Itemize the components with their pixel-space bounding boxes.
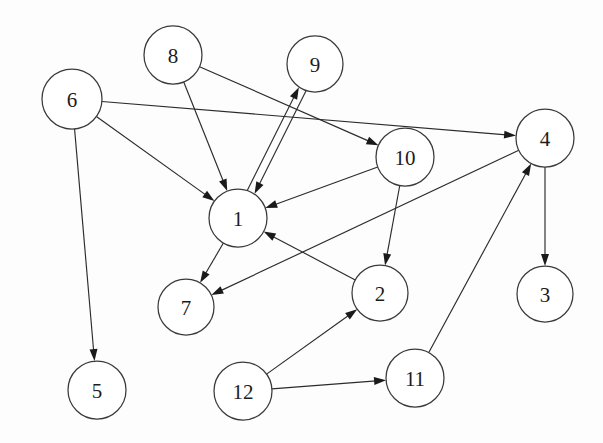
edge-6-to-5 — [75, 129, 98, 361]
node-7[interactable]: 7 — [158, 279, 214, 335]
arrowhead-icon — [200, 270, 210, 282]
node-8[interactable]: 8 — [144, 26, 202, 84]
node-label-6: 6 — [67, 88, 78, 112]
node-label-3: 3 — [540, 283, 551, 307]
arrowhead-icon — [345, 309, 357, 319]
node-10[interactable]: 10 — [376, 128, 434, 186]
arrowhead-icon — [264, 232, 276, 241]
node-label-10: 10 — [395, 146, 416, 170]
node-4[interactable]: 4 — [516, 109, 574, 167]
graph-diagram: 123456789101112 — [0, 0, 603, 443]
arrowhead-icon — [366, 137, 379, 145]
arrowhead-icon — [202, 191, 214, 201]
arrowhead-icon — [290, 87, 299, 100]
node-label-12: 12 — [233, 380, 254, 404]
arrowhead-icon — [522, 164, 531, 176]
edge-9-to-1 — [255, 91, 307, 194]
arrowhead-icon — [541, 254, 549, 266]
edge-2-to-1 — [264, 232, 356, 280]
node-3[interactable]: 3 — [517, 266, 573, 322]
node-label-1: 1 — [233, 207, 244, 231]
graph-canvas: 123456789101112 — [0, 0, 603, 443]
arrowhead-icon — [255, 181, 264, 194]
arrowhead-icon — [504, 131, 516, 139]
node-label-11: 11 — [405, 367, 425, 391]
arrowhead-icon — [219, 178, 227, 191]
arrowhead-icon — [90, 349, 98, 361]
edge-1-to-9 — [247, 87, 299, 190]
edge-12-to-2 — [267, 309, 358, 374]
node-6[interactable]: 6 — [42, 69, 102, 129]
node-9[interactable]: 9 — [287, 36, 343, 92]
node-11[interactable]: 11 — [386, 349, 444, 407]
arrowhead-icon — [211, 286, 224, 295]
edge-6-to-4 — [102, 101, 516, 138]
node-5[interactable]: 5 — [68, 361, 126, 419]
edge-10-to-2 — [383, 186, 399, 266]
edge-1-to-7 — [200, 243, 223, 283]
arrowhead-icon — [374, 377, 386, 385]
node-label-9: 9 — [310, 53, 321, 77]
nodes-layer: 123456789101112 — [42, 26, 574, 420]
edges-layer — [75, 67, 549, 389]
arrowhead-icon — [383, 253, 391, 266]
node-label-4: 4 — [540, 127, 551, 151]
edge-8-to-1 — [184, 82, 228, 191]
node-2[interactable]: 2 — [352, 265, 408, 321]
edge-6-to-1 — [96, 116, 214, 201]
node-1[interactable]: 1 — [209, 189, 267, 247]
edge-10-to-1 — [265, 167, 378, 208]
edge-12-to-11 — [272, 377, 386, 389]
edge-4-to-3 — [541, 167, 549, 266]
node-label-7: 7 — [181, 296, 192, 320]
edge-11-to-4 — [429, 164, 531, 353]
node-label-8: 8 — [168, 44, 179, 68]
node-label-2: 2 — [375, 282, 386, 306]
arrowhead-icon — [265, 200, 278, 208]
node-12[interactable]: 12 — [214, 362, 272, 420]
node-label-5: 5 — [92, 379, 103, 403]
